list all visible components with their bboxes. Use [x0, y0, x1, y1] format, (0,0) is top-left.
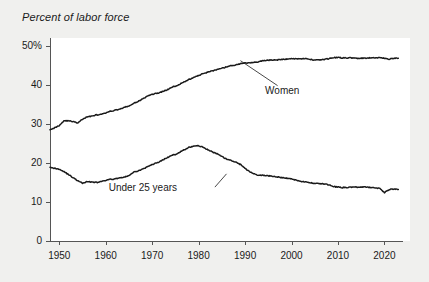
- x-axis-tick-label: 1990: [225, 250, 265, 261]
- y-axis-tick-label: 40: [8, 79, 42, 90]
- series-annotation-label: Women: [265, 85, 299, 96]
- x-axis-tick-label: 2000: [272, 250, 312, 261]
- x-axis-tick-label: 1980: [179, 250, 219, 261]
- x-axis-tick-label: 1960: [86, 250, 126, 261]
- y-axis-tick-label: 50%: [8, 40, 42, 51]
- y-axis-tick-label: 30: [8, 118, 42, 129]
- x-axis-tick-label: 2020: [364, 250, 404, 261]
- y-axis-tick-label: 0: [8, 235, 42, 246]
- x-axis-tick-label: 1970: [132, 250, 172, 261]
- leader-line: [240, 61, 277, 86]
- y-axis-tick-label: 10: [8, 196, 42, 207]
- axes: [46, 38, 403, 245]
- x-axis-tick-label: 1950: [39, 250, 79, 261]
- series-line: [50, 145, 398, 192]
- series-annotation-label: Under 25 years: [109, 182, 177, 193]
- x-axis-tick-label: 2010: [318, 250, 358, 261]
- series-line: [50, 57, 398, 130]
- leader-line: [215, 174, 227, 187]
- y-axis-tick-label: 20: [8, 157, 42, 168]
- data-series: [50, 57, 398, 193]
- chart-figure: Percent of labor force 01020304050% 1950…: [0, 0, 429, 282]
- chart-canvas: [0, 0, 429, 282]
